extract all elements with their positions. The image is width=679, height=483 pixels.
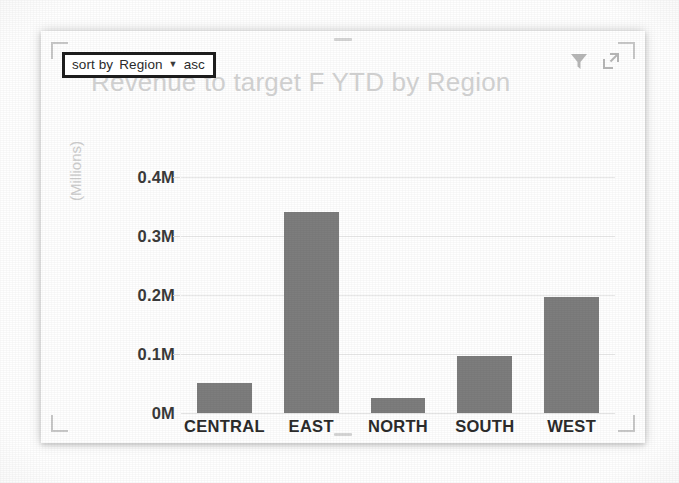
y-axis-tick-mark: [173, 354, 180, 355]
y-axis-tick-label: 0.3M: [138, 226, 175, 245]
x-axis-category-label: NORTH: [368, 417, 428, 436]
y-axis-tick-mark: [173, 177, 180, 178]
bar[interactable]: [284, 212, 339, 413]
y-axis-tick-label: 0.2M: [138, 285, 175, 304]
x-axis-category-label: SOUTH: [455, 417, 514, 436]
sort-field-label[interactable]: Region: [119, 57, 162, 72]
chevron-down-icon[interactable]: ▼: [169, 59, 178, 69]
y-axis-title: (Millions): [67, 141, 84, 201]
x-axis-category-label: EAST: [289, 417, 334, 436]
x-axis-category-label: CENTRAL: [184, 417, 265, 436]
bar[interactable]: [544, 297, 599, 413]
focus-mode-icon[interactable]: [601, 51, 621, 71]
report-visual-card: sort by Region ▼ asc Revenue to target F…: [41, 31, 645, 443]
x-axis-category-label: WEST: [547, 417, 596, 436]
filter-icon[interactable]: [569, 51, 589, 71]
bar[interactable]: [457, 356, 512, 413]
y-axis-tick-label: 0.1M: [138, 344, 175, 363]
bar[interactable]: [371, 398, 426, 413]
sort-by-tooltip[interactable]: sort by Region ▼ asc: [62, 52, 216, 78]
visual-header-icons: [569, 51, 621, 71]
sort-prefix-label: sort by: [72, 57, 113, 72]
y-axis-tick-mark: [173, 236, 180, 237]
sort-direction-label[interactable]: asc: [184, 57, 205, 72]
y-axis-tick-mark: [173, 295, 180, 296]
y-axis-tick-label: 0M: [152, 404, 175, 423]
y-axis-tick-label: 0.4M: [138, 167, 175, 186]
bar[interactable]: [197, 383, 252, 413]
